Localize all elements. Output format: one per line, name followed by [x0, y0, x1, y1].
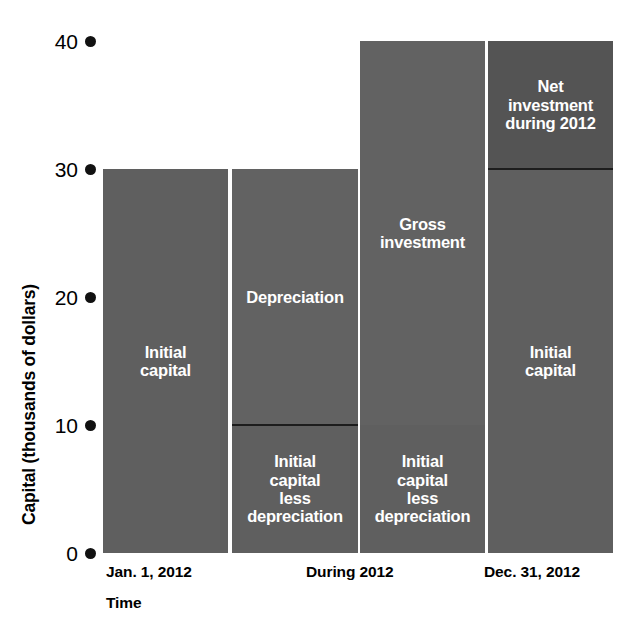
bar-segment-initial-capital: Initial capital: [488, 169, 613, 553]
y-tick-dot-icon-30: [85, 164, 96, 175]
y-tick-20: 20: [34, 287, 96, 307]
y-tick-40: 40: [34, 31, 96, 51]
bar-segment-initial-capital: Initial capital: [103, 169, 228, 553]
y-tick-dot-icon-10: [85, 420, 96, 431]
bar-segment-label: Initial capital: [138, 343, 193, 380]
bar-segment-divider: [232, 424, 358, 426]
capital-investment-bar-chart: Capital (thousands of dollars) 40 30 20 …: [0, 0, 637, 631]
plot-area: Initial capital Depreciation Initial cap…: [103, 41, 613, 553]
x-label-dec-31-2012: Dec. 31, 2012: [484, 563, 580, 581]
y-tick-dot-icon-20: [85, 292, 96, 303]
bar-segment-label: Initial capital: [523, 343, 578, 380]
x-label-during-2012: During 2012: [306, 563, 394, 581]
bar-gross-investment: Gross investment Initial capital less de…: [360, 41, 485, 553]
bar-net-investment: Net investment during 2012 Initial capit…: [488, 41, 613, 553]
bar-segment-label: Net investment during 2012: [503, 77, 597, 132]
bar-segment-label: Initial capital less depreciation: [373, 452, 473, 526]
y-tick-10: 10: [34, 415, 96, 435]
y-tick-label-0: 0: [66, 543, 78, 564]
y-tick-label-10: 10: [55, 415, 78, 436]
x-axis-title: Time: [106, 594, 142, 612]
bar-segment-initial-capital-less-depreciation: Initial capital less depreciation: [360, 425, 485, 553]
bar-segment-label: Gross investment: [378, 215, 467, 252]
bar-segment-depreciation: Depreciation: [232, 169, 358, 425]
y-tick-0: 0: [34, 543, 96, 563]
y-tick-label-20: 20: [55, 287, 78, 308]
bar-segment-label: Initial capital less depreciation: [245, 452, 345, 526]
y-tick-label-30: 30: [55, 159, 78, 180]
bar-segment-divider: [488, 168, 613, 170]
bar-segment-label: Depreciation: [244, 288, 346, 306]
bar-depreciation: Depreciation Initial capital less deprec…: [232, 169, 358, 553]
bar-segment-gross-investment: Gross investment: [360, 41, 485, 425]
x-label-jan-1-2012: Jan. 1, 2012: [106, 563, 192, 581]
y-tick-dot-icon-40: [85, 36, 96, 47]
bar-initial-capital: Initial capital: [103, 169, 228, 553]
bar-segment-net-investment: Net investment during 2012: [488, 41, 613, 169]
bar-segment-initial-capital-less-depreciation: Initial capital less depreciation: [232, 425, 358, 553]
y-tick-label-40: 40: [55, 31, 78, 52]
y-tick-30: 30: [34, 159, 96, 179]
y-tick-dot-icon-0: [85, 548, 96, 559]
